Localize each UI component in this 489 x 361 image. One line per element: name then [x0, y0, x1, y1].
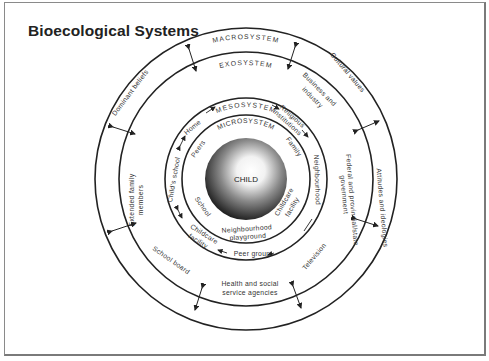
macro-item-dominant-beliefs: Dominant beliefs [111, 68, 150, 117]
arrow-icon [218, 250, 227, 253]
meso-item-peer-group: Peer group [234, 250, 271, 258]
meso-item-childs-school: Child's school [166, 156, 181, 203]
micro-item-school: School [194, 195, 213, 218]
meso-item-neighbourhood: Neighbourhood [312, 155, 322, 206]
bioecological-diagram: CHILD MACROSYSTEM EXOSYSTEM MESOSYSTEM M… [0, 0, 489, 361]
svg-text:MESOSYSTEM: MESOSYSTEM [215, 101, 278, 114]
arrow-icon [178, 210, 182, 218]
child-label: CHILD [234, 175, 258, 184]
arrow-icon [302, 130, 308, 137]
exo-item-health-2: service agencies [222, 289, 278, 297]
arrow-icon [189, 49, 196, 71]
svg-text:MACROSYSTEM: MACROSYSTEM [212, 33, 280, 44]
macro-item-attitudes-ideologies: Attitudes and ideologies [375, 168, 390, 248]
micro-item-family: Family [284, 136, 303, 159]
arrow-icon [195, 288, 202, 310]
svg-text:EXOSYSTEM: EXOSYSTEM [218, 59, 273, 69]
exo-item-health-1: Health and social [221, 280, 278, 287]
arrow-icon [180, 136, 185, 146]
arrow-icon [113, 127, 135, 134]
macrosystem-label: MACROSYSTEM [212, 33, 280, 44]
exosystem-label: EXOSYSTEM [218, 59, 273, 69]
arrow-icon [304, 219, 312, 231]
arrow-icon [288, 47, 295, 69]
micro-item-peers: Peers [190, 138, 207, 158]
exo-item-television: Television [301, 242, 327, 272]
exo-item-extended-2: members [137, 184, 144, 215]
exo-item-extended-1: Extended family [128, 173, 136, 226]
meso-item-home: Home [183, 118, 202, 136]
mesosystem-label: MESOSYSTEM [215, 101, 278, 114]
